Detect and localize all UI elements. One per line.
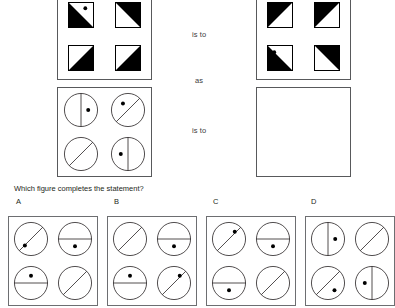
matrix-cell-top-left (211, 221, 247, 257)
square-tile (115, 45, 141, 71)
divider-line (70, 142, 93, 165)
option-d-cells (306, 217, 394, 305)
matrix-cell-bottom-left (310, 265, 346, 301)
matrix-cell-bottom-left (211, 265, 247, 301)
matrix-cell-bottom-left (68, 45, 94, 71)
panel-a-cells (58, 0, 151, 79)
option-a-cells (9, 217, 97, 305)
panel-b-cells (257, 0, 350, 79)
relation-word-1: is to (192, 30, 206, 39)
panel-d-cells (257, 88, 350, 176)
divider-line (19, 227, 42, 250)
matrix-cell-top-right (314, 2, 340, 28)
circle-tile (57, 221, 93, 257)
matrix-cell-top-right (354, 221, 390, 257)
circle-tile (255, 265, 291, 301)
option-box-a[interactable] (8, 216, 98, 306)
option-label-b: B (114, 197, 119, 206)
dot-marker (178, 274, 182, 278)
panel-c-cells (58, 88, 151, 176)
dot-marker (23, 244, 27, 248)
circle-tile (310, 221, 346, 257)
matrix-cell-bottom-right (110, 136, 146, 172)
circle-tile (156, 221, 192, 257)
dot-marker (271, 244, 275, 248)
matrix-cell-top-right (115, 2, 141, 28)
circle-tile (112, 265, 148, 301)
option-c-cells (207, 217, 295, 305)
option-box-b[interactable] (107, 216, 197, 306)
circle-tile (57, 265, 93, 301)
option-label-a: A (16, 197, 21, 206)
matrix-panel-d-blank (256, 87, 351, 177)
matrix-cell-bottom-right (115, 45, 141, 71)
matrix-cell-top-left (310, 221, 346, 257)
option-box-d[interactable] (305, 216, 395, 306)
circle-tile (211, 221, 247, 257)
matrix-cell-bottom-right (314, 45, 340, 71)
question-prompt: Which figure completes the statement? (14, 184, 144, 193)
option-box-c[interactable] (206, 216, 296, 306)
dot-marker (119, 152, 123, 156)
matrix-panel-b (256, 0, 351, 80)
circle-tile (112, 221, 148, 257)
matrix-panel-a (57, 0, 152, 80)
matrix-cell-top-left (112, 221, 148, 257)
divider-line (360, 227, 383, 250)
circle-tile (110, 92, 146, 128)
relation-word-3: is to (192, 126, 206, 135)
matrix-panel-c (57, 87, 152, 177)
circle-tile (13, 221, 49, 257)
square-tile (68, 2, 94, 28)
matrix-cell-bottom-right (354, 265, 390, 301)
matrix-cell-top-right (110, 92, 146, 128)
square-tile (267, 45, 293, 71)
circle-tile (354, 265, 390, 301)
circle-tile (63, 92, 99, 128)
divider-line (63, 271, 86, 294)
divider-line (116, 98, 139, 121)
circle-tile (63, 136, 99, 172)
circle-tile (310, 265, 346, 301)
dot-marker (333, 237, 337, 241)
square-tile (115, 2, 141, 28)
circle-tile (13, 265, 49, 301)
circle-tile (211, 265, 247, 301)
dot-marker (273, 50, 277, 54)
dot-marker (121, 102, 125, 106)
matrix-cell-bottom-right (156, 265, 192, 301)
matrix-cell-bottom-left (112, 265, 148, 301)
dot-marker (86, 108, 90, 112)
dot-marker (29, 274, 33, 278)
matrix-cell-bottom-right (57, 265, 93, 301)
dot-marker (128, 274, 132, 278)
divider-line (118, 227, 141, 250)
circle-tile (110, 136, 146, 172)
dot-marker (333, 288, 337, 292)
divider-line (261, 271, 284, 294)
dot-marker (363, 281, 367, 285)
divider-line (217, 227, 240, 250)
option-label-d: D (311, 197, 316, 206)
matrix-cell-bottom-left (63, 136, 99, 172)
option-label-c: C (213, 197, 218, 206)
square-tile (267, 2, 293, 28)
matrix-cell-top-left (267, 2, 293, 28)
matrix-cell-top-left (68, 2, 94, 28)
matrix-cell-top-right (255, 221, 291, 257)
matrix-cell-top-left (13, 221, 49, 257)
dot-marker (227, 288, 231, 292)
dot-marker (172, 244, 176, 248)
matrix-cell-bottom-left (267, 45, 293, 71)
square-tile (314, 45, 340, 71)
square-tile (68, 45, 94, 71)
matrix-cell-bottom-left (13, 265, 49, 301)
circle-tile (255, 221, 291, 257)
square-tile (314, 2, 340, 28)
divider-line (162, 271, 185, 294)
relation-word-2: as (195, 76, 203, 85)
option-b-cells (108, 217, 196, 305)
matrix-cell-top-right (156, 221, 192, 257)
circle-tile (354, 221, 390, 257)
